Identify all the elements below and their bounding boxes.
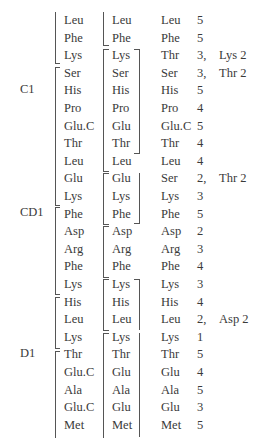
table-row: ThrThrThr5	[0, 346, 259, 364]
residue-col-a: His	[64, 294, 81, 312]
residue-col-b: Ala	[112, 382, 130, 400]
residue-col-a: Leu	[64, 12, 83, 30]
table-row: LysLysLys1	[0, 329, 259, 347]
residue-col-c: His	[161, 82, 178, 100]
count: 3	[197, 399, 203, 417]
residue-col-b: Lys	[112, 188, 130, 206]
table-row: LeuLeuLeu5	[0, 12, 259, 30]
table-row: LeuLeuLeu2,Asp 2	[0, 311, 259, 329]
count: 5	[197, 206, 203, 224]
residue-col-b: Phe	[112, 30, 131, 48]
residue-col-b: His	[112, 294, 129, 312]
count: 5	[197, 417, 203, 435]
bracket-col-a-3	[55, 207, 60, 295]
residue-col-a: Asp	[64, 223, 84, 241]
count: 4	[197, 100, 203, 118]
bracket-col-b-right-3	[134, 279, 140, 330]
residue-col-a: Thr	[64, 135, 82, 153]
group-label-d1: D1	[20, 346, 35, 361]
note: Thr 2	[219, 170, 246, 188]
residue-col-a: Lys	[64, 276, 82, 294]
bracket-col-a-1	[55, 12, 60, 64]
residue-col-a: Met	[64, 417, 84, 435]
count: 4	[197, 258, 203, 276]
bracket-col-b-right-1	[134, 49, 140, 154]
group-label-c1: C1	[20, 82, 35, 97]
residue-col-a: Lys	[64, 188, 82, 206]
residue-col-c: Glu	[161, 399, 180, 417]
table-row: PhePhePhe5	[0, 30, 259, 48]
count: 5	[197, 30, 203, 48]
table-row: PhePhePhe4	[0, 258, 259, 276]
residue-col-c: Lys	[161, 276, 179, 294]
count: 4	[197, 135, 203, 153]
bracket-col-b-1	[103, 12, 109, 46]
residue-col-b: Phe	[112, 258, 131, 276]
table-row: Glu.CGluGlu3	[0, 399, 259, 417]
count: 5	[197, 346, 203, 364]
residue-col-a: Glu	[64, 170, 83, 188]
residue-col-b: Leu	[112, 153, 131, 171]
bracket-col-b-right-4	[134, 333, 140, 437]
residue-col-c: Arg	[161, 241, 180, 259]
table-row: LysLysLys3	[0, 188, 259, 206]
residue-col-a: Pro	[64, 100, 81, 118]
table-row: ArgArgArg3	[0, 241, 259, 259]
residue-col-b: Leu	[112, 311, 131, 329]
table-row: LysLysLys3	[0, 276, 259, 294]
bracket-col-b-6	[103, 333, 109, 438]
count: 4	[197, 153, 203, 171]
table-row: AlaAlaAla5	[0, 382, 259, 400]
count: 4	[197, 294, 203, 312]
table-row: GluGluSer2,Thr 2	[0, 170, 259, 188]
residue-col-b: Thr	[112, 135, 130, 153]
residue-col-c: Leu	[161, 311, 180, 329]
residue-col-b: His	[112, 82, 129, 100]
residue-col-b: Lys	[112, 47, 130, 65]
count: 3,	[197, 65, 206, 83]
residue-col-c: Phe	[161, 30, 180, 48]
residue-col-c: Leu	[161, 153, 180, 171]
residue-col-b: Arg	[112, 241, 131, 259]
residue-col-b: Glu	[112, 399, 131, 417]
table-row: SerSerSer3,Thr 2	[0, 65, 259, 83]
residue-col-b: Pro	[112, 100, 129, 118]
count: 4	[197, 364, 203, 382]
table-row: HisHisHis4	[0, 294, 259, 312]
residue-col-c: Asp	[161, 223, 181, 241]
bracket-col-b-right-2	[134, 173, 140, 224]
table-row: ProProPro4	[0, 100, 259, 118]
count: 3	[197, 276, 203, 294]
table-row: HisHisHis5	[0, 82, 259, 100]
count: 2	[197, 223, 203, 241]
note: Thr 2	[219, 65, 246, 83]
residue-col-c: Ser	[161, 170, 178, 188]
residue-col-a: Glu.C	[64, 399, 94, 417]
table-row: AspAspAsp2	[0, 223, 259, 241]
count: 5	[197, 82, 203, 100]
note: Lys 2	[219, 47, 246, 65]
table-row: Glu.CGluGlu.C5	[0, 118, 259, 136]
count: 5	[197, 382, 203, 400]
residue-col-b: Ser	[112, 65, 129, 83]
residue-col-b: Lys	[112, 276, 130, 294]
residue-col-a: Glu.C	[64, 118, 94, 136]
group-label-cd1: CD1	[20, 205, 44, 220]
residue-col-c: Thr	[161, 47, 179, 65]
residue-col-a: His	[64, 82, 81, 100]
residue-col-b: Thr	[112, 346, 130, 364]
residue-col-a: Lys	[64, 329, 82, 347]
table-row: MetMetMet5	[0, 417, 259, 435]
residue-col-b: Phe	[112, 206, 131, 224]
residue-col-c: Leu	[161, 12, 180, 30]
count: 3	[197, 241, 203, 259]
count: 1	[197, 329, 203, 347]
residue-col-a: Lys	[64, 47, 82, 65]
residue-col-a: Leu	[64, 153, 83, 171]
residue-col-c: Met	[161, 417, 181, 435]
residue-col-c: Glu.C	[161, 118, 191, 136]
bracket-col-b-3	[103, 173, 109, 225]
residue-col-c: Ser	[161, 65, 178, 83]
bracket-col-a-2b	[55, 150, 60, 206]
count: 2,	[197, 170, 206, 188]
